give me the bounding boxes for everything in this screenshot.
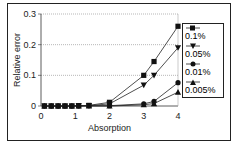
- x-tick-label: 2: [107, 111, 112, 121]
- series-line: [44, 48, 178, 106]
- legend-item: 0.1%: [183, 24, 223, 42]
- y-tick-label: 0.1: [23, 70, 36, 80]
- x-tick-label: 3: [141, 111, 146, 121]
- y-tick-label: 0.2: [23, 40, 36, 50]
- series-line: [44, 26, 178, 106]
- legend: 0.1%0.05%0.01%0.005%: [182, 23, 224, 98]
- legend-label: 0.005%: [185, 85, 216, 95]
- data-point: [141, 83, 147, 89]
- x-axis-label: Absorption: [88, 123, 131, 133]
- legend-label: 0.1%: [185, 31, 206, 41]
- x-tick-label: 4: [175, 111, 180, 121]
- data-point: [151, 59, 156, 64]
- legend-item: 0.05%: [183, 42, 223, 60]
- data-point: [175, 80, 180, 85]
- x-tick-label: 0: [38, 111, 43, 121]
- data-point: [175, 24, 180, 29]
- y-tick-label: 0.3: [23, 9, 36, 19]
- x-tick-label: 1: [73, 111, 78, 121]
- data-point: [141, 73, 146, 78]
- legend-label: 0.01%: [185, 67, 211, 77]
- legend-item: 0.01%: [183, 60, 223, 78]
- y-axis-label: Relative error: [12, 33, 22, 87]
- y-tick-label: 0: [31, 101, 36, 111]
- legend-item: 0.005%: [183, 78, 223, 96]
- legend-label: 0.05%: [185, 49, 211, 59]
- data-point: [175, 89, 181, 95]
